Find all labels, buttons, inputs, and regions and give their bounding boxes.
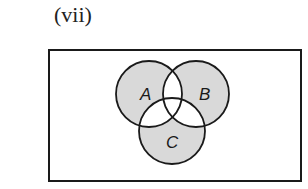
set-a-label: A [139, 85, 151, 104]
region-c-only-shaded [0, 0, 308, 189]
set-c-label: C [166, 133, 179, 152]
venn-diagram: A B C [0, 0, 308, 189]
set-b-label: B [199, 85, 210, 104]
